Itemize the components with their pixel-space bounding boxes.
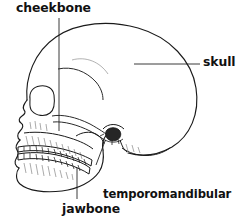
condyle-head-fill — [106, 128, 121, 141]
skull-base-curve — [122, 148, 170, 156]
temporal-line — [58, 68, 103, 100]
zygomatic-arch-group — [52, 68, 110, 141]
mandibular-notch — [76, 132, 104, 144]
coronoid-notch-group — [76, 132, 104, 144]
skull-diagram-figure: cheekbone skull temporomandibular joint … — [0, 0, 240, 223]
brow-profile — [18, 100, 27, 140]
zygomatic-arch-lower — [53, 122, 106, 141]
orbit-outline — [30, 86, 55, 116]
label-cheekbone: cheekbone — [16, 2, 91, 15]
eye-socket-group — [30, 86, 55, 116]
label-tmj-line1: temporomandibular — [103, 188, 231, 201]
teeth-group — [18, 146, 92, 174]
label-skull: skull — [203, 56, 235, 69]
label-temporomandibular-joint: temporomandibular joint — [103, 163, 231, 223]
label-jawbone: jawbone — [62, 203, 120, 216]
